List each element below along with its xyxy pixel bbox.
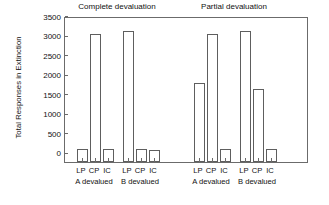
bar bbox=[240, 31, 251, 162]
y-axis-tick: 0 bbox=[57, 149, 65, 158]
x-axis-category-label: CP bbox=[206, 166, 217, 175]
bar-chart-figure: Total Responses in Extinction 0500100015… bbox=[0, 0, 329, 205]
y-axis-tick: 1500 bbox=[43, 90, 65, 99]
y-axis-tick-mark bbox=[65, 133, 68, 134]
x-axis-category-label: IC bbox=[220, 166, 228, 175]
x-axis-category-label: CP bbox=[135, 166, 146, 175]
bar bbox=[253, 89, 264, 162]
y-axis-tick-label: 2500 bbox=[43, 51, 65, 60]
x-axis-category-label: LP bbox=[122, 166, 131, 175]
x-axis-category-label: LP bbox=[76, 166, 85, 175]
x-axis-category-label: LP bbox=[239, 166, 248, 175]
x-axis-group-label: A devalued bbox=[192, 177, 230, 186]
x-axis-tick-mark bbox=[128, 158, 129, 162]
x-axis-category-label: IC bbox=[266, 166, 274, 175]
x-axis-tick-mark bbox=[141, 158, 142, 162]
x-axis-category-label: LP bbox=[193, 166, 202, 175]
x-axis-tick-mark bbox=[258, 158, 259, 162]
y-axis-tick: 500 bbox=[48, 129, 65, 138]
y-axis-tick-label: 500 bbox=[48, 129, 65, 138]
x-axis-group-label: B devalued bbox=[238, 177, 276, 186]
y-axis-tick-label: 3000 bbox=[43, 32, 65, 41]
y-axis-tick-mark bbox=[65, 114, 68, 115]
bar bbox=[207, 34, 218, 162]
y-axis-tick-mark bbox=[65, 16, 68, 17]
x-axis-category-label: IC bbox=[149, 166, 157, 175]
panel-title: Complete devaluation bbox=[78, 2, 155, 11]
x-axis-tick-mark bbox=[199, 158, 200, 162]
x-axis-tick-mark bbox=[271, 158, 272, 162]
x-axis-category-label: CP bbox=[252, 166, 263, 175]
x-axis-tick-mark bbox=[95, 158, 96, 162]
y-axis-tick-label: 0 bbox=[57, 149, 65, 158]
y-axis-tick: 2500 bbox=[43, 51, 65, 60]
x-axis-category-label: IC bbox=[103, 166, 111, 175]
plot-area: 0500100015002000250030003500 bbox=[64, 17, 308, 163]
x-axis-tick-mark bbox=[245, 158, 246, 162]
y-axis-tick-label: 1000 bbox=[43, 110, 65, 119]
panel-title: Partial devaluation bbox=[201, 2, 267, 11]
x-axis-category-label: CP bbox=[89, 166, 100, 175]
y-axis-title: Total Responses in Extinction bbox=[14, 8, 23, 168]
y-axis-tick: 1000 bbox=[43, 110, 65, 119]
y-axis-tick: 3500 bbox=[43, 12, 65, 21]
y-axis-tick-mark bbox=[65, 153, 68, 154]
y-axis-tick-label: 2000 bbox=[43, 71, 65, 80]
x-axis-tick-mark bbox=[154, 158, 155, 162]
x-axis-tick-mark bbox=[108, 158, 109, 162]
y-axis-tick-label: 3500 bbox=[43, 12, 65, 21]
y-axis-tick-mark bbox=[65, 36, 68, 37]
x-axis-tick-mark bbox=[212, 158, 213, 162]
bar bbox=[90, 34, 101, 162]
x-axis-tick-mark bbox=[225, 158, 226, 162]
bar bbox=[194, 83, 205, 162]
y-axis-tick-mark bbox=[65, 55, 68, 56]
bar bbox=[123, 31, 134, 162]
y-axis-tick-mark bbox=[65, 75, 68, 76]
x-axis-group-label: B devalued bbox=[121, 177, 159, 186]
y-axis-tick-label: 1500 bbox=[43, 90, 65, 99]
y-axis-tick: 3000 bbox=[43, 32, 65, 41]
y-axis-tick: 2000 bbox=[43, 71, 65, 80]
x-axis-tick-mark bbox=[82, 158, 83, 162]
x-axis-group-label: A devalued bbox=[75, 177, 113, 186]
y-axis-tick-mark bbox=[65, 94, 68, 95]
